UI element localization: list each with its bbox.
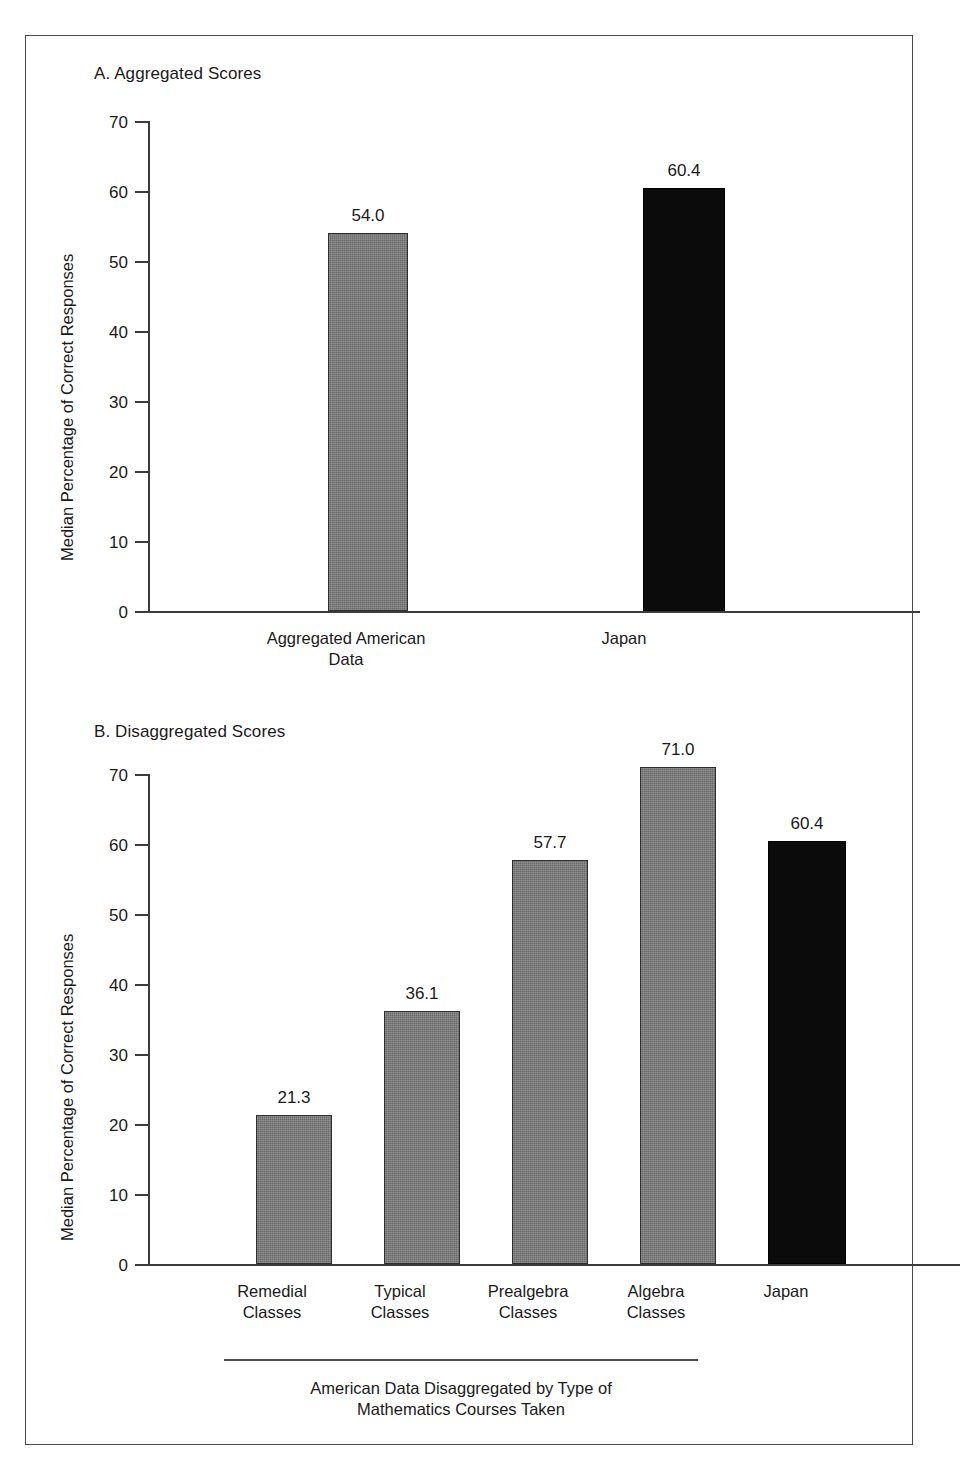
bar-value-typical-classes: 36.1 [405, 984, 438, 1004]
bar-value-remedial-classes: 21.3 [277, 1088, 310, 1108]
panel-a-ytick-label-50: 50 [109, 253, 128, 270]
panel-b-title: B. Disaggregated Scores [94, 722, 285, 742]
panel-a-y-axis-label: Median Percentage of Correct Responses [58, 254, 77, 561]
panel-a-ytick-label-60: 60 [109, 183, 128, 200]
bar-algebra-classes: 71.0 [640, 767, 716, 1264]
panel-b-ytick-label-50: 50 [109, 906, 128, 923]
panel-a-x-axis [140, 611, 920, 613]
panel-b-ytick-30: 30 [135, 1054, 148, 1056]
bar-japan-disaggregated: 60.4 [768, 841, 846, 1264]
category-label-aggregated-american-data: Aggregated American Data [238, 628, 454, 669]
panel-a-y-axis [148, 121, 150, 611]
panel-a-ytick-label-30: 30 [109, 393, 128, 410]
panel-a-plot-area: 70 60 50 40 30 20 10 0 [148, 121, 808, 611]
panel-b-ytick-0: 0 [135, 1264, 148, 1266]
bar-japan-aggregated: 60.4 [643, 188, 725, 611]
panel-a-ytick-label-10: 10 [109, 533, 128, 550]
panel-b-ytick-label-0: 0 [119, 1256, 128, 1273]
panel-b-ytick-label-70: 70 [109, 766, 128, 783]
panel-a-ytick-50: 50 [135, 261, 148, 263]
panel-a-ytick-10: 10 [135, 541, 148, 543]
panel-b-ytick-50: 50 [135, 914, 148, 916]
bar-value-japan-aggregated: 60.4 [667, 161, 700, 181]
bar-value-algebra-classes: 71.0 [661, 740, 694, 760]
panel-b-y-axis [148, 774, 150, 1264]
american-group-caption: American Data Disaggregated by Type of M… [196, 1378, 726, 1421]
panel-b-ytick-label-40: 40 [109, 976, 128, 993]
panel-a: A. Aggregated Scores Median Percentage o… [26, 36, 912, 696]
panel-a-ytick-label-70: 70 [109, 113, 128, 130]
panel-a-ytick-60: 60 [135, 191, 148, 193]
panel-a-ytick-40: 40 [135, 331, 148, 333]
bar-prealgebra-classes: 57.7 [512, 860, 588, 1264]
panel-a-ytick-label-0: 0 [119, 603, 128, 620]
panel-b-y-axis-label: Median Percentage of Correct Responses [58, 934, 77, 1241]
american-group-rule [224, 1359, 698, 1361]
category-label-japan-disaggregated: Japan [710, 1281, 862, 1302]
bar-value-japan-disaggregated: 60.4 [790, 814, 823, 834]
panel-a-ytick-30: 30 [135, 401, 148, 403]
panel-b-ytick-label-60: 60 [109, 836, 128, 853]
panel-b: B. Disaggregated Scores Median Percentag… [26, 696, 912, 1446]
bar-typical-classes: 36.1 [384, 1011, 460, 1264]
panel-a-ytick-label-20: 20 [109, 463, 128, 480]
panel-a-title: A. Aggregated Scores [94, 64, 261, 84]
panel-b-ytick-10: 10 [135, 1194, 148, 1196]
panel-b-ytick-label-30: 30 [109, 1046, 128, 1063]
panel-b-ytick-70: 70 [135, 774, 148, 776]
figure-frame: A. Aggregated Scores Median Percentage o… [25, 35, 913, 1445]
panel-b-ytick-60: 60 [135, 844, 148, 846]
panel-b-x-axis [140, 1264, 960, 1266]
panel-a-ytick-70: 70 [135, 121, 148, 123]
panel-a-ytick-label-40: 40 [109, 323, 128, 340]
bar-remedial-classes: 21.3 [256, 1115, 332, 1264]
bar-value-aggregated-american-data: 54.0 [351, 206, 384, 226]
panel-b-ytick-20: 20 [135, 1124, 148, 1126]
panel-a-ytick-0: 0 [135, 611, 148, 613]
panel-a-ytick-20: 20 [135, 471, 148, 473]
bar-aggregated-american-data: 54.0 [328, 233, 408, 611]
panel-b-ytick-40: 40 [135, 984, 148, 986]
panel-b-ytick-label-10: 10 [109, 1186, 128, 1203]
bar-value-prealgebra-classes: 57.7 [533, 833, 566, 853]
category-label-japan-aggregated: Japan [564, 628, 684, 649]
panel-b-plot-area: 70 60 50 40 30 20 10 0 [148, 774, 848, 1264]
panel-b-ytick-label-20: 20 [109, 1116, 128, 1133]
